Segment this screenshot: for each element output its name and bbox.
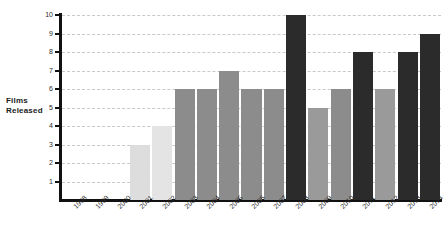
- plot-area: [62, 15, 441, 200]
- bar-2003: [175, 89, 195, 200]
- bar-2007: [264, 89, 284, 200]
- y-tick-label: 5: [38, 104, 53, 111]
- y-tick-label: 1: [38, 178, 53, 185]
- bar-2004: [197, 89, 217, 200]
- y-tick-label: 4: [38, 122, 53, 129]
- bar-2011: [353, 52, 373, 200]
- bar-2005: [219, 71, 239, 201]
- y-tick-label: 3: [38, 141, 53, 148]
- bar-2002: [152, 126, 172, 200]
- bar-2008: [286, 15, 306, 200]
- y-tick-label: 6: [38, 85, 53, 92]
- bar-chart: Films Released 12345678910 1998199920002…: [0, 0, 446, 238]
- bar-2010: [331, 89, 351, 200]
- y-tick-label: 7: [38, 67, 53, 74]
- bar-2012: [375, 89, 395, 200]
- bar-2013: [398, 52, 418, 200]
- y-tick-label: 10: [38, 11, 53, 18]
- y-tick-label: 8: [38, 48, 53, 55]
- y-tick-label: 2: [38, 159, 53, 166]
- bar-2006: [241, 89, 261, 200]
- bar-2009: [308, 108, 328, 201]
- y-tick-label: 9: [38, 30, 53, 37]
- bar-2014: [420, 34, 440, 201]
- bar-2001: [130, 145, 150, 201]
